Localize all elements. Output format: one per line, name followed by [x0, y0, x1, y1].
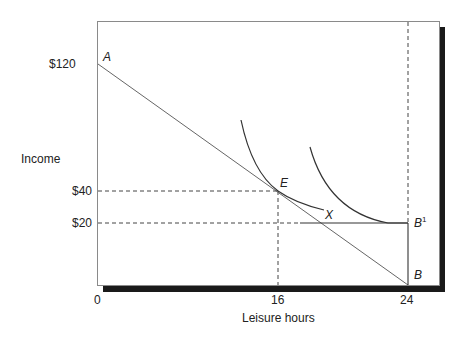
point-label-e: E [280, 176, 288, 190]
point-label-b1-superscript: 1 [422, 215, 426, 224]
y-tick-20: $20 [72, 216, 92, 230]
y-tick-40: $40 [72, 184, 92, 198]
frame-shadow-bottom [103, 286, 445, 292]
point-label-b: B [414, 268, 422, 282]
plot-frame [98, 22, 440, 286]
y-tick-120: $120 [49, 57, 76, 71]
y-axis-label: Income [21, 152, 60, 166]
x-tick-0: 0 [94, 293, 101, 307]
x-axis-label: Leisure hours [242, 311, 315, 325]
chart-canvas [0, 0, 459, 338]
point-label-a: A [103, 50, 111, 64]
point-label-b1: B1 [414, 215, 426, 230]
x-tick-24: 24 [400, 293, 413, 307]
frame-shadow-right [440, 27, 445, 292]
point-label-x: X [325, 208, 333, 222]
point-label-b1-letter: B [414, 216, 422, 230]
x-tick-16: 16 [271, 293, 284, 307]
